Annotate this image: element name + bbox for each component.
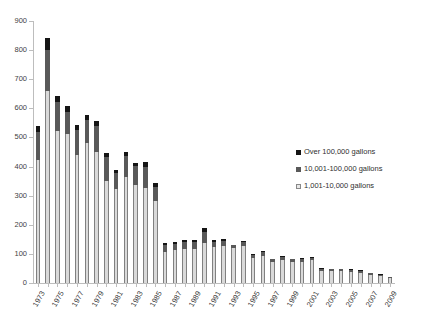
legend-swatch-icon [296,167,301,172]
x-axis-tick-mark [234,284,235,287]
x-axis-tick-mark [243,284,244,287]
legend-item: 1,001-10,000 gallons [296,179,426,193]
x-axis-tick-mark [194,284,195,287]
legend-swatch-icon [296,184,301,189]
legend-item-label: 1,001-10,000 gallons [304,182,374,190]
x-axis-tick-mark [97,284,98,287]
x-axis-tick-mark [224,284,225,287]
chart-legend: Over 100,000 gallons10,001-100,000 gallo… [296,145,426,196]
x-axis-tick-mark [253,284,254,287]
x-axis-tick-mark [48,284,49,287]
x-axis-tick-mark [77,284,78,287]
x-axis-tick-mark [106,284,107,287]
x-axis-tick-mark [380,284,381,287]
x-axis-tick-mark [38,284,39,287]
x-axis-tick-mark [146,284,147,287]
x-axis-tick-mark [214,284,215,287]
x-axis-tick-mark [204,284,205,287]
x-axis-tick-mark [87,284,88,287]
x-axis-tick-mark [165,284,166,287]
x-axis-tick-mark [116,284,117,287]
x-axis-tick-mark [273,284,274,287]
x-axis-tick-mark [302,284,303,287]
x-axis-tick-mark [322,284,323,287]
x-axis-tick-mark [331,284,332,287]
x-axis-tick-mark [341,284,342,287]
x-axis-tick-mark [390,284,391,287]
legend-item: 10,001-100,000 gallons [296,162,426,176]
x-axis-tick-mark [351,284,352,287]
x-axis-tick-mark [155,284,156,287]
legend-item-label: Over 100,000 gallons [304,148,375,156]
x-axis-tick-label: 2009 [376,290,399,322]
x-axis-tick-mark [263,284,264,287]
x-axis-tick-mark [371,284,372,287]
x-axis-tick-mark [312,284,313,287]
x-axis-tick-mark [136,284,137,287]
x-axis-tick-mark [175,284,176,287]
stacked-bar-chart: 0100200300400500600700800900 19731975197… [0,0,431,330]
x-axis-tick-mark [361,284,362,287]
x-axis-tick-mark [292,284,293,287]
x-axis-tick-mark [282,284,283,287]
legend-item: Over 100,000 gallons [296,145,426,159]
legend-swatch-icon [296,150,301,155]
x-axis-tick-mark [67,284,68,287]
x-axis-tick-mark [126,284,127,287]
x-axis-tick-mark [185,284,186,287]
legend-item-label: 10,001-100,000 gallons [304,165,382,173]
x-axis-tick-mark [57,284,58,287]
